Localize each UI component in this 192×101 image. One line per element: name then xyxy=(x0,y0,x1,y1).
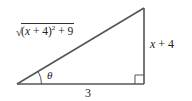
plus-sign: + xyxy=(30,25,42,37)
radical-sign: √ xyxy=(16,26,22,38)
opposite-rest: + 4 xyxy=(155,37,174,51)
radicand: (x + 4)2 + 9 xyxy=(21,23,74,38)
hypotenuse-label: √(x + 4)2 + 9 xyxy=(16,23,74,38)
angle-arc xyxy=(38,71,41,84)
angle-label: θ xyxy=(47,70,52,81)
opposite-label: x + 4 xyxy=(150,38,174,50)
right-angle-marker xyxy=(135,75,144,84)
constant-9: 9 xyxy=(68,25,74,37)
hypotenuse-line xyxy=(17,8,144,84)
adjacent-label: 3 xyxy=(85,87,91,99)
plus-sign-2: + xyxy=(55,25,67,37)
right-triangle-diagram: √(x + 4)2 + 9 x + 4 3 θ xyxy=(0,0,192,101)
